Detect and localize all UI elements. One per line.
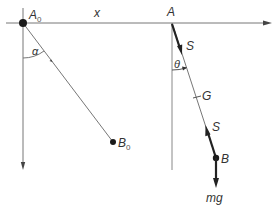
- tension-arrow-bottom-head-icon: [205, 125, 210, 136]
- label-a: A: [166, 5, 175, 19]
- label-b: B: [221, 152, 229, 166]
- left-axis-arrow-icon: [21, 162, 25, 170]
- label-alpha: α: [32, 45, 39, 57]
- label-theta: θ: [174, 58, 180, 70]
- tension-arrow-top-head-icon: [177, 44, 182, 55]
- label-g: G: [202, 89, 211, 103]
- tension-arrow-top: [172, 24, 180, 47]
- center-of-mass-tick: [193, 96, 201, 98]
- label-b0-sub: 0: [126, 143, 131, 152]
- initial-rope: [23, 23, 113, 142]
- label-s-bottom: S: [212, 120, 220, 134]
- x-axis-arrow-icon: [263, 21, 272, 26]
- point-a0: [19, 19, 27, 27]
- tension-arrow-bottom: [208, 133, 216, 158]
- pendulum-diagram: A 0 x α B 0 A S θ G S B mg: [0, 0, 274, 210]
- weight-arrow-head-icon: [213, 178, 219, 188]
- point-b0: [110, 139, 116, 145]
- label-a0-sub: 0: [37, 15, 42, 24]
- label-mg: mg: [206, 191, 223, 205]
- label-a0: A: [28, 8, 37, 22]
- label-b0: B: [118, 136, 126, 150]
- label-s-top: S: [186, 39, 194, 53]
- label-x: x: [93, 6, 101, 20]
